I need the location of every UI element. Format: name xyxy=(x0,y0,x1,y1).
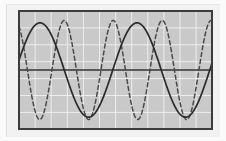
plot-canvas xyxy=(0,0,226,141)
waveform-figure xyxy=(0,0,226,141)
